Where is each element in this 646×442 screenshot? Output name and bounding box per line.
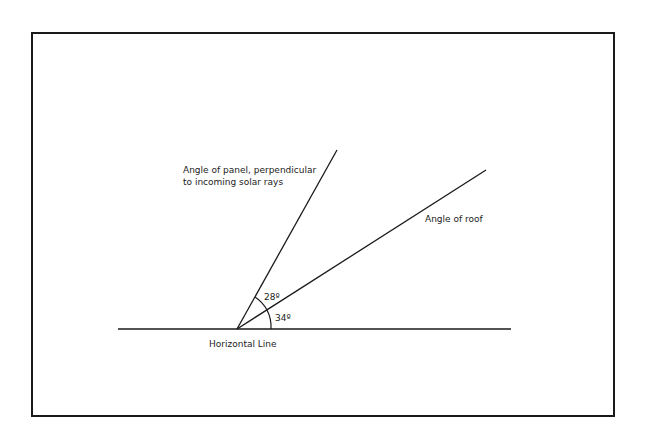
horizontal-label: Horizontal Line (209, 338, 277, 350)
panel-label-line2: to incoming solar rays (183, 176, 283, 188)
angle-arc-roof-horizontal (267, 310, 271, 329)
diagram-canvas (0, 0, 646, 442)
roof-label: Angle of roof (425, 213, 483, 225)
roof-line (237, 170, 486, 329)
angle-label-34: 34º (275, 312, 291, 324)
panel-label-line1: Angle of panel, perpendicular (183, 164, 316, 176)
angle-label-28: 28º (264, 291, 280, 303)
